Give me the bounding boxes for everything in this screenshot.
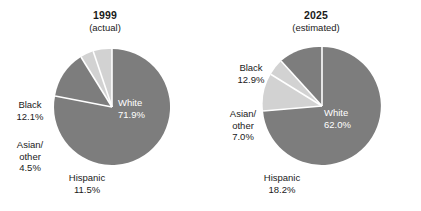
slice-label-black-2025: Black 12.9% xyxy=(225,62,277,85)
pie-svg-2025 xyxy=(262,46,382,166)
slice-label-asian-1999-pct: 4.5% xyxy=(2,162,58,174)
slice-label-hispanic-1999-name: Hispanic xyxy=(69,172,105,183)
slice-label-asian-2025-name2: other xyxy=(215,120,271,132)
slice-label-black-2025-name: Black xyxy=(239,62,262,73)
slice-label-hispanic-1999: Hispanic 11.5% xyxy=(51,172,123,195)
slice-label-asian-2025: Asian/ other 7.0% xyxy=(215,108,271,143)
slice-label-asian-1999-name2: other xyxy=(2,151,58,163)
slice-label-white-2025-pct: 62.0% xyxy=(324,119,380,131)
chart-subtitle-1999: (actual) xyxy=(0,22,210,33)
chart-title-2025: 2025 xyxy=(211,9,421,21)
slice-label-white-1999: White 71.9% xyxy=(118,97,174,120)
slice-label-black-1999: Black 12.1% xyxy=(4,99,56,122)
slice-label-white-2025: White 62.0% xyxy=(324,107,380,130)
slice-label-hispanic-2025-name: Hispanic xyxy=(264,172,300,183)
slice-label-asian-2025-pct: 7.0% xyxy=(215,131,271,143)
slice-label-white-2025-name: White xyxy=(324,107,348,118)
slice-label-white-1999-pct: 71.9% xyxy=(118,109,174,121)
slice-label-asian-1999-name: Asian/ xyxy=(17,139,43,150)
slice-label-hispanic-1999-pct: 11.5% xyxy=(51,184,123,196)
slice-label-white-1999-name: White xyxy=(118,97,142,108)
pie-chart-1999: 1999 (actual) Black 12.1% Asian/ o xyxy=(0,0,210,211)
slice-label-black-1999-pct: 12.1% xyxy=(4,111,56,123)
slice-label-hispanic-2025: Hispanic 18.2% xyxy=(246,172,318,195)
slice-label-asian-2025-name: Asian/ xyxy=(230,108,256,119)
chart-subtitle-2025: (estimated) xyxy=(211,22,421,33)
slice-label-black-1999-name: Black xyxy=(18,99,41,110)
slice-label-asian-1999: Asian/ other 4.5% xyxy=(2,139,58,174)
chart-title-1999: 1999 xyxy=(0,9,210,21)
pie-graphic-2025 xyxy=(262,46,382,166)
pie-chart-2025: 2025 (estimated) Black 12.9% Asian/ xyxy=(211,0,421,211)
slice-label-hispanic-2025-pct: 18.2% xyxy=(246,184,318,196)
slice-label-black-2025-pct: 12.9% xyxy=(225,74,277,86)
